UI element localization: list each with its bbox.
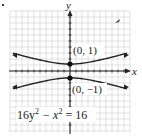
stray-mark (2, 4, 4, 6)
pen-mark-icon (115, 19, 120, 23)
x-axis-label: x (131, 65, 137, 77)
vertex-lower-label: (0, −1) (72, 83, 102, 96)
vertex-lower-dot (67, 75, 72, 80)
equation-label: 16y2 − x2 = 16 (17, 107, 87, 122)
vertex-upper-dot (67, 61, 72, 66)
vertex-upper-label: (0, 1) (73, 44, 97, 57)
y-axis-label: y (65, 0, 71, 11)
hyperbola-chart: (0, 1) (0, −1) x y 16y2 − x2 = 16 (0, 0, 142, 137)
